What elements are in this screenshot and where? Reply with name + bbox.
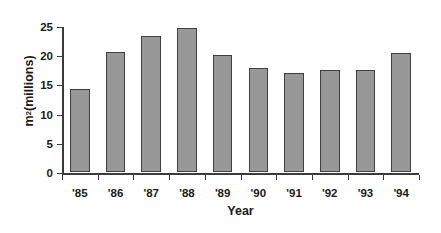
y-tick-label: 20 [40,50,53,62]
y-axis-title-units: (millions) [22,55,36,111]
x-tick-label: '86 [108,187,124,199]
x-tick-mark [169,175,170,180]
y-axis-title-base: m [22,115,36,126]
y-tick-mark [57,85,62,86]
bar [141,36,161,172]
x-tick-label: '94 [393,187,409,199]
x-tick-mark [312,175,313,180]
x-tick-label: '91 [286,187,302,199]
y-tick-label: 25 [40,21,53,33]
y-tick-label: 10 [40,109,53,121]
x-tick-mark [348,175,349,180]
bar [320,70,340,172]
x-tick-label: '85 [72,187,88,199]
bar [106,52,126,172]
y-tick-label: 15 [40,79,53,91]
bar [213,55,233,172]
y-tick-mark [57,56,62,57]
bar [284,73,304,172]
x-tick-label: '89 [215,187,231,199]
x-tick-mark [62,175,63,180]
x-tick-label: '92 [322,187,338,199]
bar [391,53,411,172]
y-axis-title: m2 (millions) [18,4,40,178]
y-tick-label: 5 [47,138,53,150]
bar [177,28,197,172]
bar [249,68,269,172]
x-tick-label: '88 [179,187,195,199]
x-tick-mark [205,175,206,180]
x-tick-mark [241,175,242,180]
plot-area: 0510152025 '85'86'87'88'89'90'91'92'93'9… [62,27,419,174]
x-tick-label: '93 [358,187,374,199]
x-tick-mark [276,175,277,180]
y-tick-mark [57,144,62,145]
y-tick-mark [57,27,62,28]
bar [356,70,376,172]
y-tick-mark [57,173,62,174]
x-tick-mark [133,175,134,180]
x-tick-label: '87 [143,187,159,199]
x-tick-mark [419,175,420,180]
bar [70,89,90,173]
x-tick-mark [98,175,99,180]
x-axis-title: Year [62,204,419,218]
y-tick-mark [57,115,62,116]
y-axis-line [62,27,64,175]
x-tick-label: '90 [251,187,267,199]
y-tick-label: 0 [47,167,53,179]
bar-chart-figure: m2 (millions) 0510152025 '85'86'87'88'89… [0,0,441,233]
x-tick-mark [383,175,384,180]
